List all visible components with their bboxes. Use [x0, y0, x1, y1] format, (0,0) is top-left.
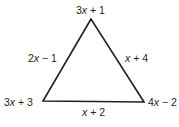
side-right-label: x + 4 [124, 52, 148, 64]
vertex-bottom-right-label: 4x − 2 [148, 96, 177, 108]
vertex-top-label: 3x + 1 [76, 4, 105, 16]
side-bottom-label: x + 2 [81, 106, 105, 118]
vertex-bottom-left-label: 3x + 3 [4, 96, 33, 108]
triangle-diagram: 3x + 1 2x − 1 x + 4 3x + 3 4x − 2 x + 2 [0, 0, 179, 127]
side-left-label: 2x − 1 [28, 52, 57, 64]
